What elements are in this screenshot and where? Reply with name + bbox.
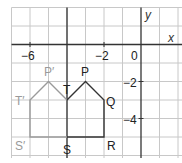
y-tick-label-neg4: −4: [123, 113, 137, 127]
x-tick-label-0: 0: [131, 49, 138, 63]
x-tick-label-neg6: −6: [21, 49, 35, 63]
y-axis-label: y: [145, 8, 151, 22]
y-tick-label-neg2: −2: [123, 76, 137, 90]
vertex-label-T-prime: T′: [15, 94, 25, 108]
x-axis-label: x: [168, 31, 174, 45]
vertex-label-T: T: [63, 83, 70, 97]
vertex-label-R: R: [107, 139, 116, 153]
vertex-label-S-prime: S′: [15, 139, 25, 153]
coordinate-diagram: y x −6 −2 0 −2 −4 P Q R S T P′ T′ S′: [0, 0, 182, 163]
vertex-label-P-prime: P′: [44, 65, 54, 79]
vertex-label-P: P: [81, 65, 89, 79]
x-tick-label-neg2: −2: [95, 49, 109, 63]
vertex-label-Q: Q: [106, 95, 115, 109]
vertex-label-S: S: [63, 143, 71, 157]
